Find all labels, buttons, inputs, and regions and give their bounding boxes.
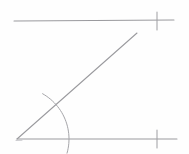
angle-arc bbox=[43, 94, 69, 153]
geometry-figure-svg: Parallel lines cut by a transversal Hand… bbox=[0, 0, 189, 154]
transversal-ray bbox=[17, 33, 137, 139]
geometry-figure-canvas: Parallel lines cut by a transversal Hand… bbox=[0, 0, 189, 154]
top-parallel-line bbox=[14, 20, 174, 21]
